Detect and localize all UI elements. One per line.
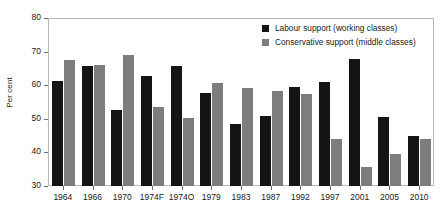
x-tick-mark bbox=[182, 186, 183, 190]
bar-labour bbox=[82, 66, 93, 186]
bar-conservative bbox=[94, 65, 105, 186]
x-tick-mark bbox=[93, 186, 94, 190]
bar-group bbox=[51, 18, 75, 186]
bar-chart-figure: Per cent 304050607080 1964196619701974F1… bbox=[0, 0, 445, 210]
legend-label: Labour support (working classes) bbox=[275, 23, 397, 33]
y-tick-mark bbox=[44, 186, 48, 187]
legend-swatch-icon bbox=[262, 25, 269, 32]
bar-conservative bbox=[301, 94, 312, 186]
bar-conservative bbox=[242, 88, 253, 186]
bar-labour bbox=[319, 82, 330, 186]
x-tick-mark bbox=[152, 186, 153, 190]
legend-item: Labour support (working classes) bbox=[262, 22, 416, 34]
bar-labour bbox=[349, 59, 360, 186]
bar-group bbox=[140, 18, 164, 186]
x-tick-mark bbox=[360, 186, 361, 190]
legend-swatch-icon bbox=[262, 39, 269, 46]
x-tick-mark bbox=[300, 186, 301, 190]
bar-labour bbox=[289, 87, 300, 186]
y-tick-label: 60 bbox=[32, 79, 41, 89]
chart-legend: Labour support (working classes)Conserva… bbox=[262, 22, 416, 50]
bar-group bbox=[199, 18, 223, 186]
bar-group bbox=[81, 18, 105, 186]
y-axis-tick: 40 bbox=[0, 152, 48, 153]
x-tick-mark bbox=[122, 186, 123, 190]
bar-labour bbox=[230, 124, 241, 186]
bar-conservative bbox=[212, 83, 223, 186]
bar-labour bbox=[141, 76, 152, 186]
bar-conservative bbox=[390, 154, 401, 186]
y-tick-label: 40 bbox=[32, 146, 41, 156]
y-axis-tick: 50 bbox=[0, 119, 48, 120]
x-tick-mark bbox=[419, 186, 420, 190]
bar-conservative bbox=[183, 118, 194, 186]
y-tick-label: 80 bbox=[32, 12, 41, 22]
bar-labour bbox=[408, 136, 419, 186]
bar-conservative bbox=[331, 139, 342, 186]
bar-conservative bbox=[361, 167, 372, 186]
x-tick-mark bbox=[330, 186, 331, 190]
y-axis-title: Per cent bbox=[5, 63, 14, 123]
bar-conservative bbox=[272, 91, 283, 186]
y-axis-tick: 60 bbox=[0, 85, 48, 86]
x-tick-mark bbox=[211, 186, 212, 190]
bar-group bbox=[229, 18, 253, 186]
legend-item: Conservative support (middle classes) bbox=[262, 36, 416, 48]
bar-labour bbox=[171, 66, 182, 186]
bar-conservative bbox=[153, 107, 164, 186]
bar-group bbox=[110, 18, 134, 186]
legend-label: Conservative support (middle classes) bbox=[275, 37, 416, 47]
y-axis-tick: 80 bbox=[0, 18, 48, 19]
x-tick-mark bbox=[389, 186, 390, 190]
x-tick-mark bbox=[271, 186, 272, 190]
x-tick-mark bbox=[63, 186, 64, 190]
bar-conservative bbox=[420, 139, 431, 186]
x-tick-mark bbox=[241, 186, 242, 190]
bar-conservative bbox=[123, 55, 134, 186]
bar-labour bbox=[260, 116, 271, 186]
y-axis-tick: 70 bbox=[0, 52, 48, 53]
y-tick-label: 70 bbox=[32, 46, 41, 56]
bar-conservative bbox=[64, 60, 75, 186]
bar-group bbox=[170, 18, 194, 186]
y-axis-tick: 30 bbox=[0, 186, 48, 187]
bar-labour bbox=[52, 81, 63, 186]
bar-labour bbox=[111, 110, 122, 186]
y-tick-label: 50 bbox=[32, 113, 41, 123]
y-tick-label: 30 bbox=[32, 180, 41, 190]
x-tick-label: 2010 bbox=[399, 192, 439, 202]
bar-labour bbox=[378, 117, 389, 186]
bar-labour bbox=[200, 93, 211, 186]
